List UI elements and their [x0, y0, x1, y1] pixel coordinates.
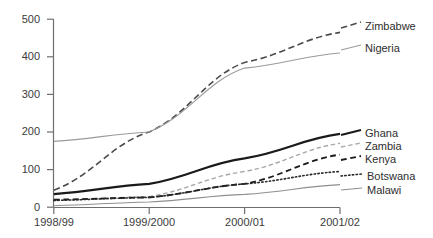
legend-swatch-zimbabwe — [341, 22, 361, 28]
legend-label-botswana: Botswana — [367, 170, 415, 182]
legend-label-nigeria: Nigeria — [365, 42, 400, 54]
x-tick-label-2001-02: 2001/02 — [303, 216, 377, 228]
y-tick-label-400: 400 — [10, 50, 40, 62]
line-chart: 500 400 300 200 100 0 1998/99 1999/2000 … — [0, 0, 433, 238]
legend-swatch-botswana — [341, 174, 362, 176]
legend-swatch-kenya — [341, 156, 361, 160]
legend-swatch-zambia — [341, 143, 361, 147]
y-tick-label-200: 200 — [10, 125, 40, 137]
x-tick-label-1998-99: 1998/99 — [17, 216, 91, 228]
legend-label-zambia: Zambia — [365, 140, 402, 152]
legend-swatch-malawi — [341, 188, 362, 190]
y-tick-label-300: 300 — [10, 88, 40, 100]
y-axis-ticks — [47, 19, 54, 207]
legend-label-zimbabwe: Zimbabwe — [365, 20, 416, 32]
axis-lines — [54, 19, 341, 208]
legend-swatch-nigeria — [341, 45, 361, 50]
legend-label-kenya: Kenya — [365, 153, 396, 165]
series-line-botswana — [54, 171, 340, 200]
y-tick-label-100: 100 — [10, 163, 40, 175]
x-tick-label-1999-2000: 1999/2000 — [107, 216, 191, 228]
legend-swatch-ghana — [341, 130, 361, 135]
x-axis-ticks — [54, 208, 340, 215]
legend-swatch-group — [341, 22, 362, 190]
legend-label-ghana: Ghana — [365, 127, 398, 139]
legend-label-malawi: Malawi — [367, 184, 401, 196]
y-tick-label-500: 500 — [10, 13, 40, 25]
data-series-group — [54, 32, 340, 205]
y-tick-label-0: 0 — [10, 201, 40, 213]
x-tick-label-2000-01: 2000/01 — [208, 216, 282, 228]
series-line-malawi — [54, 185, 340, 206]
plot-area — [0, 0, 433, 238]
